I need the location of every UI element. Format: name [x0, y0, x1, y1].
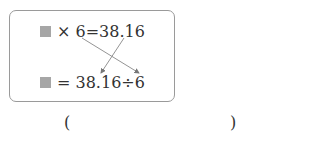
answer-open-paren: (: [64, 113, 70, 132]
answer-blank[interactable]: [75, 113, 225, 133]
arrow-product-to-dividend: [101, 38, 124, 73]
answer-close-paren: ): [230, 113, 236, 132]
arrow-6-to-divisor: [82, 38, 139, 73]
